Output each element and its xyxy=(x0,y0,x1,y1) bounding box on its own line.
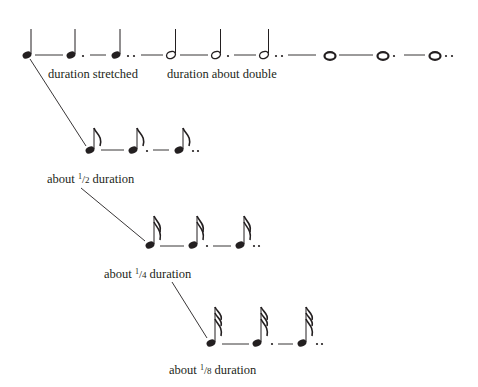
label-duration-about-double: duration about double xyxy=(167,68,277,81)
label-about-half-duration: about 1/2 duration xyxy=(47,173,134,186)
double-dotted-half-note xyxy=(258,29,283,60)
dotted-thirty-second-note xyxy=(251,307,273,348)
double-dotted-quarter-note xyxy=(110,29,135,60)
note-duration-diagram xyxy=(0,0,478,387)
label-about-quarter-duration: about 1/4 duration xyxy=(104,268,191,281)
dotted-whole-note xyxy=(378,52,396,60)
thirty-second-note xyxy=(205,307,221,348)
eighth-note xyxy=(84,128,100,155)
label-suffix: duration xyxy=(146,267,191,281)
label-prefix: about xyxy=(169,363,200,377)
label-suffix: duration xyxy=(89,172,134,186)
double-dotted-whole-note xyxy=(430,52,454,60)
label-duration-stretched: duration stretched xyxy=(48,68,138,81)
quarter-note xyxy=(21,29,32,60)
dotted-eighth-note xyxy=(127,128,148,155)
dotted-half-note xyxy=(210,29,229,60)
double-dotted-thirty-second-note xyxy=(296,307,323,348)
branch-lines xyxy=(30,59,207,338)
half-note xyxy=(165,29,176,60)
label-about-eighth-duration: about 1/8 duration xyxy=(169,364,256,377)
double-dotted-eighth-note xyxy=(173,128,199,155)
label-suffix: duration xyxy=(211,363,256,377)
whole-note xyxy=(325,52,336,60)
label-prefix: about xyxy=(47,172,78,186)
label-prefix: about xyxy=(104,267,135,281)
sixteenth-note xyxy=(144,216,160,250)
double-dotted-sixteenth-note xyxy=(234,216,260,250)
dotted-sixteenth-note xyxy=(187,216,208,250)
dotted-quarter-note xyxy=(65,29,84,60)
